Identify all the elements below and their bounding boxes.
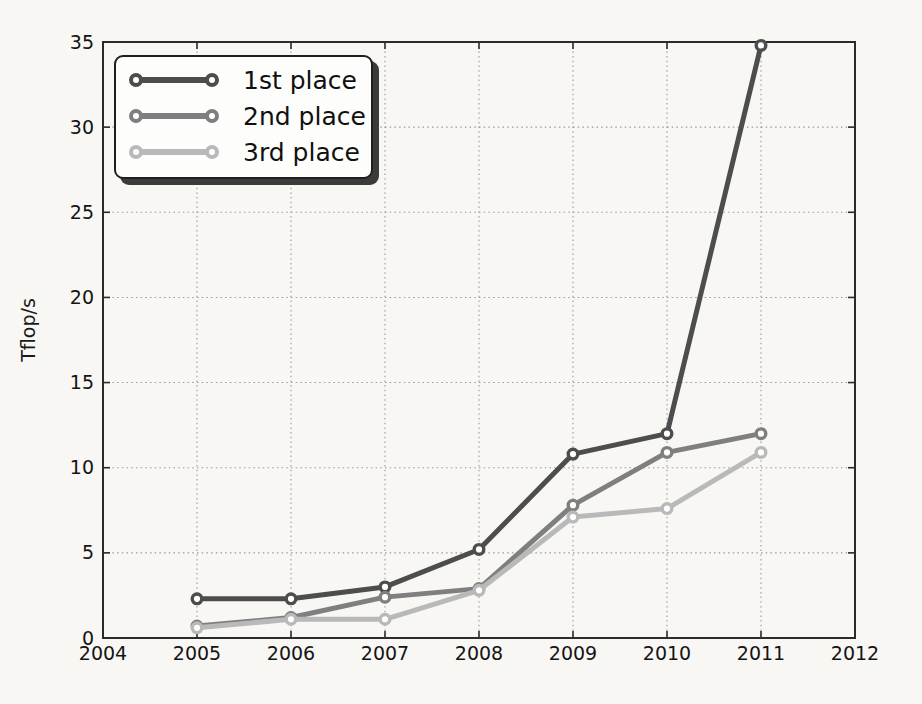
data-point-2nd-place (756, 429, 766, 439)
x-tick-label: 2006 (267, 642, 315, 664)
data-point-1st-place (286, 594, 296, 604)
circle-marker-icon (205, 73, 219, 87)
y-tick-label: 30 (70, 116, 94, 138)
circle-marker-icon (129, 73, 143, 87)
x-tick-label: 2009 (549, 642, 597, 664)
x-tick-label: 2011 (737, 642, 785, 664)
data-point-1st-place (756, 41, 766, 51)
data-point-3rd-place (662, 504, 672, 514)
circle-marker-icon (205, 109, 219, 123)
data-point-3rd-place (474, 586, 484, 596)
data-point-1st-place (192, 594, 202, 604)
y-tick-label: 10 (70, 456, 94, 478)
data-point-1st-place (662, 429, 672, 439)
data-point-3rd-place (568, 512, 578, 522)
legend-item-1st-place: 1st place (129, 62, 361, 98)
legend-item-2nd-place: 2nd place (129, 98, 361, 134)
legend-line-sample (129, 109, 219, 123)
data-point-2nd-place (568, 500, 578, 510)
data-point-2nd-place (662, 448, 672, 458)
data-point-1st-place (380, 582, 390, 592)
circle-marker-icon (129, 145, 143, 159)
x-tick-label: 2008 (455, 642, 503, 664)
x-tick-label: 2005 (173, 642, 221, 664)
data-point-1st-place (474, 545, 484, 555)
y-tick-label: 35 (70, 31, 94, 53)
legend-label: 2nd place (243, 102, 366, 131)
data-point-3rd-place (756, 448, 766, 458)
legend-line-sample (129, 145, 219, 159)
data-point-3rd-place (192, 623, 202, 633)
x-tick-label: 2007 (361, 642, 409, 664)
data-point-3rd-place (286, 614, 296, 624)
data-point-1st-place (568, 449, 578, 459)
legend-label: 1st place (243, 66, 357, 95)
y-axis-label: Tflop/s (17, 298, 39, 362)
chart-figure: 2004200520062007200820092010201120120510… (0, 0, 922, 704)
y-tick-label: 0 (82, 627, 94, 649)
y-tick-label: 5 (82, 541, 94, 563)
circle-marker-icon (205, 145, 219, 159)
data-point-2nd-place (380, 592, 390, 602)
data-point-3rd-place (380, 614, 390, 624)
y-tick-label: 25 (70, 201, 94, 223)
legend-label: 3rd place (243, 138, 360, 167)
legend: 1st place 2nd place 3rd place (114, 55, 373, 179)
circle-marker-icon (129, 109, 143, 123)
x-tick-label: 2010 (643, 642, 691, 664)
y-tick-label: 15 (70, 371, 94, 393)
x-tick-label: 2012 (831, 642, 879, 664)
y-tick-label: 20 (70, 286, 94, 308)
legend-item-3rd-place: 3rd place (129, 134, 361, 170)
legend-line (137, 77, 211, 83)
legend-line (137, 113, 211, 119)
legend-line (137, 149, 211, 155)
legend-line-sample (129, 73, 219, 87)
